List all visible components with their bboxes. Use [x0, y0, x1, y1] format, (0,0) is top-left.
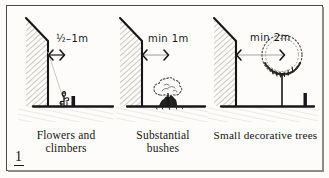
panel-3-drawing: [208, 5, 323, 129]
panel-1-drawing: [12, 5, 116, 129]
dimension-arrow: [237, 50, 285, 60]
dimension-label: min 1m: [148, 33, 189, 44]
figure-root: ½–1m Flowers and climbers: [0, 0, 329, 178]
panel-container: ½–1m Flowers and climbers: [6, 5, 323, 171]
figure-number: 1: [14, 150, 24, 166]
diagram-panel-small-decorative-trees: min 2m Small decorative trees: [208, 5, 323, 171]
panel-caption-substantial-bushes: Substantial bushes: [118, 129, 208, 154]
wall-hatch-fill: [214, 18, 236, 106]
diagram-panel-flowers-and-climbers: ½–1m Flowers and climbers: [12, 5, 116, 171]
ground-shading: [18, 106, 114, 122]
dimension-label: ½–1m: [56, 33, 88, 44]
panel-caption-flowers-and-climbers: Flowers and climbers: [16, 129, 116, 154]
post-marker: [304, 93, 307, 107]
panel-2-drawing: [116, 5, 208, 129]
post-marker: [72, 96, 76, 107]
plant-substantial-bush: [154, 78, 183, 110]
diagram-panel-substantial-bushes: min 1m Substantial bushes: [116, 5, 208, 171]
plant-small-decorative-tree: [262, 35, 307, 107]
wall-hatch-fill: [120, 18, 142, 106]
dimension-arrow: [49, 50, 65, 60]
wall-hatch-fill: [26, 18, 48, 106]
dimension-arrow: [143, 50, 169, 60]
dimension-label: min 2m: [250, 32, 291, 43]
panel-caption-small-decorative-trees: Small decorative trees: [208, 129, 323, 142]
ground-shading: [208, 106, 318, 122]
